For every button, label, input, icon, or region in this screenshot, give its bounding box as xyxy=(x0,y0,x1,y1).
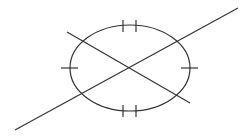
geometry-diagram xyxy=(0,0,252,139)
short-line xyxy=(67,32,190,103)
long-line xyxy=(15,8,238,130)
